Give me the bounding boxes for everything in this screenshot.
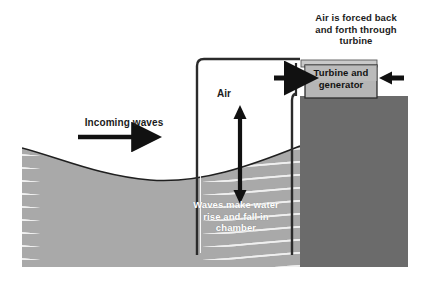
turbine-and-generator-label: Turbine and generator: [306, 67, 376, 91]
cliff-seawall: [300, 96, 408, 267]
owc-diagram-figure: Air is forced back and forth through tur…: [0, 0, 428, 283]
incoming-waves-label: Incoming waves: [58, 117, 190, 129]
air-label: Air: [196, 88, 252, 100]
turbine-outlet-arrow-icon: [379, 72, 404, 85]
waves-make-water-label: Waves make water rise and fall in chambe…: [176, 199, 296, 234]
air-forced-through-turbine-label: Air is forced back and forth through tur…: [300, 12, 412, 47]
